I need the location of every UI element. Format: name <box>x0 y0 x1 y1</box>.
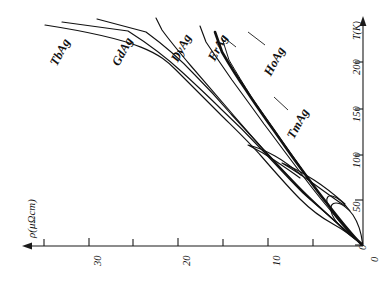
leader-tmag <box>274 97 288 110</box>
t-tick-label-150: 150 <box>352 106 363 122</box>
rho-tick-label-30: 30 <box>93 256 104 267</box>
rho-tick-label-20: 20 <box>182 256 193 267</box>
rho-tick-label-10: 10 <box>272 256 283 267</box>
curve-tmag <box>222 38 361 244</box>
leader-hoag <box>248 32 265 45</box>
curve-gdag <box>97 19 361 243</box>
t-tick-label-0: 0 <box>358 245 369 250</box>
t-tick-label-50: 50 <box>352 202 363 213</box>
figure-canvas: 0 50 100 150 200 0 10 20 30 T(K) ρ(μΩcm)… <box>0 0 387 282</box>
t-tick-label-100: 100 <box>352 152 363 168</box>
rho-tick-label-0: 0 <box>370 257 381 262</box>
resistivity-axis <box>22 238 363 249</box>
t-tick-label-200: 200 <box>352 59 363 75</box>
temperature-axis-title: T(K) <box>352 21 362 40</box>
curve-hoag <box>215 32 361 244</box>
resistivity-axis-title: ρ(μΩcm) <box>26 199 37 238</box>
curve-tbag <box>45 25 361 243</box>
